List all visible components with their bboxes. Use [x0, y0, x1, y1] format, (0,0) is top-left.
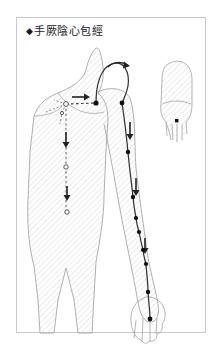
acupoint-pc4[interactable]	[131, 195, 135, 199]
acupoint-pc10-middle-fingertip[interactable]	[148, 317, 153, 322]
meridian-chart-page: ◆手厥陰心包經	[0, 0, 222, 349]
hand-inset-terminal-point[interactable]	[175, 119, 178, 122]
internal-marker-junction[interactable]	[64, 102, 69, 107]
acupoint-pc8[interactable]	[144, 262, 148, 266]
meridian-diagram-svg	[0, 0, 222, 349]
acupoint-pc3[interactable]	[126, 150, 130, 154]
internal-marker-lower[interactable]	[65, 210, 69, 214]
arrow-shoulder-curved	[108, 62, 130, 69]
acupoint-pc5[interactable]	[134, 216, 138, 220]
acupoint-pc2[interactable]	[120, 101, 125, 106]
acupoint-pc7[interactable]	[141, 248, 145, 252]
internal-marker-middle[interactable]	[64, 165, 68, 169]
acupoint-pc1[interactable]	[93, 100, 98, 105]
torso-hatch-fill	[0, 0, 222, 349]
figure-body-group	[0, 0, 222, 349]
acupoint-pc6[interactable]	[137, 230, 141, 234]
acupoint-pc9[interactable]	[146, 290, 150, 294]
internal-marker-upper[interactable]	[60, 111, 63, 114]
